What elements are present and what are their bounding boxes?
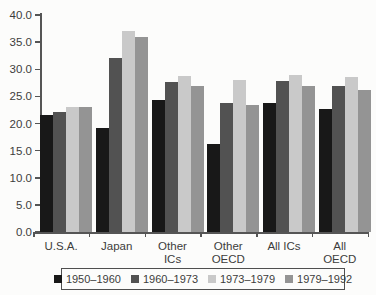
legend-label: 1973–1979: [220, 274, 275, 285]
bar-1979-1992-group-1: [135, 37, 148, 232]
y-tick-label: 25.0: [2, 90, 32, 102]
bar-1973-1979-group-0: [66, 107, 79, 232]
y-tick-label: 35.0: [2, 36, 32, 48]
bar-1973-1979-group-5: [345, 77, 358, 232]
bar-1960-1973-group-1: [109, 58, 122, 232]
bar-1950-1960-group-3: [207, 144, 220, 232]
legend-item: 1973–1979: [208, 274, 275, 285]
legend-swatch-icon: [208, 275, 216, 283]
y-tick-label: 40.0: [2, 9, 32, 21]
bar-1950-1960-group-0: [40, 115, 53, 232]
bar-1960-1973-group-0: [53, 112, 66, 232]
x-axis-tick: [256, 232, 258, 237]
x-axis-tick: [145, 232, 147, 237]
y-tick-label: 30.0: [2, 63, 32, 75]
bar-1950-1960-group-1: [96, 128, 109, 232]
legend-label: 1950–1960: [66, 274, 121, 285]
x-category-label: Japan: [89, 240, 145, 253]
bar-1973-1979-group-4: [289, 75, 302, 232]
bar-chart-figure: 0.05.010.015.020.025.030.035.040.0 U.S.A…: [0, 0, 376, 295]
y-axis-tick: [35, 41, 40, 43]
legend-label: 1979–1992: [297, 274, 352, 285]
legend-swatch-icon: [54, 275, 62, 283]
legend-item: 1960–1973: [131, 274, 198, 285]
bar-1960-1973-group-2: [165, 82, 178, 232]
bar-1973-1979-group-3: [233, 80, 246, 232]
y-axis-tick: [35, 96, 40, 98]
legend-item: 1979–1992: [285, 274, 352, 285]
bar-1950-1960-group-4: [263, 103, 276, 232]
legend-swatch-icon: [285, 275, 293, 283]
y-tick-label: 10.0: [2, 172, 32, 184]
x-category-label: Other ICs: [145, 240, 201, 266]
y-tick-label: 0.0: [2, 226, 32, 238]
legend-box: 1950–19601960–19731973–19791979–1992: [61, 268, 345, 290]
legend-item: 1950–1960: [54, 274, 121, 285]
x-category-label: U.S.A.: [33, 240, 89, 253]
bar-1979-1992-group-2: [191, 86, 204, 232]
y-axis-tick: [35, 14, 40, 16]
y-tick-label: 15.0: [2, 145, 32, 157]
bar-1950-1960-group-2: [152, 100, 165, 232]
x-axis-tick: [200, 232, 202, 237]
bar-1960-1973-group-4: [276, 81, 289, 232]
x-category-label: All ICs: [256, 240, 312, 253]
bar-1973-1979-group-1: [122, 31, 135, 232]
y-axis-tick: [35, 69, 40, 71]
legend-swatch-icon: [131, 275, 139, 283]
bar-1979-1992-group-4: [302, 86, 315, 232]
bar-1973-1979-group-2: [178, 76, 191, 232]
x-axis-tick: [33, 232, 35, 237]
bar-1950-1960-group-5: [319, 109, 332, 232]
y-tick-label: 20.0: [2, 118, 32, 130]
x-category-label: Other OECD: [200, 240, 256, 266]
legend-label: 1960–1973: [143, 274, 198, 285]
x-axis-tick: [312, 232, 314, 237]
bar-1979-1992-group-0: [79, 107, 92, 232]
bar-1960-1973-group-3: [220, 103, 233, 232]
x-axis-tick: [368, 232, 370, 237]
bar-1979-1992-group-5: [358, 90, 371, 232]
bar-1979-1992-group-3: [246, 105, 259, 232]
x-category-label: All OECD: [312, 240, 368, 266]
x-axis-tick: [89, 232, 91, 237]
bar-1960-1973-group-5: [332, 86, 345, 232]
y-tick-label: 5.0: [2, 199, 32, 211]
